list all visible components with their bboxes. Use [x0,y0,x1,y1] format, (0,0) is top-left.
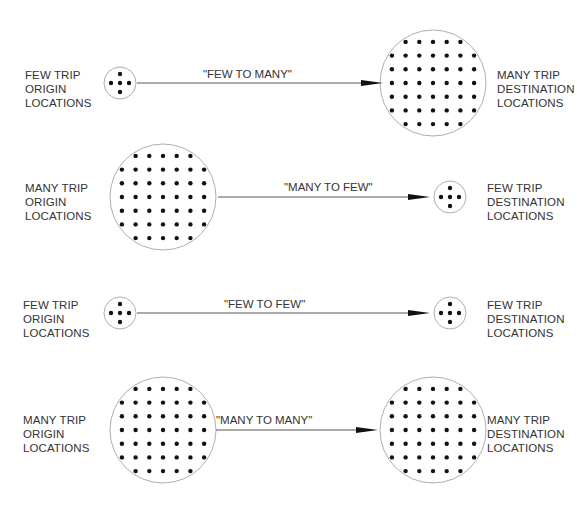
row4-destination-location-dot [431,469,435,473]
row4-origin-location-dot [161,387,165,391]
row2-origin-location-dot [161,195,165,199]
row1-destination-location-dot [417,108,421,112]
label-line: LOCATIONS [487,441,565,455]
row1-destination-location-dot [390,53,394,57]
row1-origin-location-dot [109,81,113,85]
row2-origin-location-dot [188,222,192,226]
row4-origin-location-dot [161,442,165,446]
row4-destination-location-dot [458,455,462,459]
row1-destination-location-dot [458,108,462,112]
row4-origin-location-dot [120,414,124,418]
row2-origin-location-dot [161,222,165,226]
row4-destination-location-dot [390,428,394,432]
row3-origin-location-dot [127,311,131,315]
row4-origin-location-dot [202,428,206,432]
row2-origin-location-dot [188,209,192,213]
row1-destination-location-dot [403,81,407,85]
row4-origin-location-dot [161,455,165,459]
row4-destination-location-dot [445,442,449,446]
label-line: LOCATIONS [25,209,92,223]
label-line: LOCATIONS [487,209,565,223]
row1-destination-location-dot [445,122,449,126]
row1-destination-location-dot [403,53,407,57]
row1-destination-location-dot [417,40,421,44]
row4-destination-location-dot [403,455,407,459]
row1-destination-location-dot [458,67,462,71]
row1-origin-location-dot [118,90,122,94]
row2-origin-location-dot [133,209,137,213]
row4-origin-location-dot [202,414,206,418]
row1-origin-label: FEW TRIP ORIGIN LOCATIONS [25,68,92,110]
row1-destination-location-dot [445,53,449,57]
row3-origin-location-dot [109,311,113,315]
row2-origin-location-dot [188,236,192,240]
row4-origin-location-dot [188,442,192,446]
row1-destination-location-dot [417,122,421,126]
row4-origin-location-dot [175,469,179,473]
row4-destination-location-dot [390,442,394,446]
row4-origin-location-dot [202,455,206,459]
row2-origin-location-dot [120,167,124,171]
row1-destination-location-dot [431,67,435,71]
row1-destination-location-dot [390,67,394,71]
label-line: ORIGIN [25,82,92,96]
row4-destination-location-dot [403,414,407,418]
row4-origin-location-dot [188,414,192,418]
row1-destination-location-dot [390,108,394,112]
row4-destination-location-dot [445,400,449,404]
row4-origin-location-dot [133,387,137,391]
row4-destination-location-dot [403,387,407,391]
label-line: LOCATIONS [23,326,90,340]
row2-origin-location-dot [133,222,137,226]
label-line: DESTINATION [487,427,565,441]
row4-destination-location-dot [417,455,421,459]
row1-destination-location-dot [458,40,462,44]
row4-destination-location-dot [417,442,421,446]
label-line: LOCATIONS [25,96,92,110]
row4-origin-location-dot [133,400,137,404]
row4-destination-location-dot [472,455,476,459]
row2-origin-location-dot [133,167,137,171]
row2-destination-location-dot [439,195,443,199]
row2-destination-location-dot [448,186,452,190]
row4-flow-label: "MANY TO MANY" [216,414,312,426]
row4-origin-location-dot [175,442,179,446]
row1-destination-location-dot [458,122,462,126]
row4-destination-location-dot [458,442,462,446]
row1-destination-location-dot [417,95,421,99]
row1-destination-label: MANY TRIP DESTINATION LOCATIONS [497,68,575,110]
row4-destination-location-dot [445,455,449,459]
label-line: FEW TRIP [487,181,565,195]
row3-origin-location-dot [118,311,122,315]
row1-destination-location-dot [472,108,476,112]
row2-origin-location-dot [202,181,206,185]
row1-destination-location-dot [403,122,407,126]
row1-destination-location-dot [431,53,435,57]
row3-flow-label: "FEW TO FEW" [224,298,305,310]
row2-origin-location-dot [161,181,165,185]
row1-destination-location-dot [472,81,476,85]
row4-destination-location-dot [458,387,462,391]
row1-destination-location-dot [431,40,435,44]
row4-destination-location-dot [417,400,421,404]
label-line: DESTINATION [487,195,565,209]
row4-origin-location-dot [188,469,192,473]
row4-origin-location-dot [120,455,124,459]
row4-destination-location-dot [472,442,476,446]
row2-origin-location-dot [120,222,124,226]
row2-origin-location-dot [175,154,179,158]
row2-origin-location-dot [161,236,165,240]
row4-origin-location-dot [147,387,151,391]
row2-origin-location-dot [202,167,206,171]
label-line: ORIGIN [25,195,92,209]
row2-origin-location-dot [175,236,179,240]
row1-destination-location-dot [445,95,449,99]
row4-destination-location-dot [431,455,435,459]
row4-destination-location-dot [458,428,462,432]
row4-destination-location-dot [390,414,394,418]
row2-destination-label: FEW TRIP DESTINATION LOCATIONS [487,181,565,223]
row4-destination-location-dot [417,428,421,432]
label-line: MANY TRIP [487,413,565,427]
row4-origin-location-dot [120,400,124,404]
row2-origin-location-dot [147,236,151,240]
